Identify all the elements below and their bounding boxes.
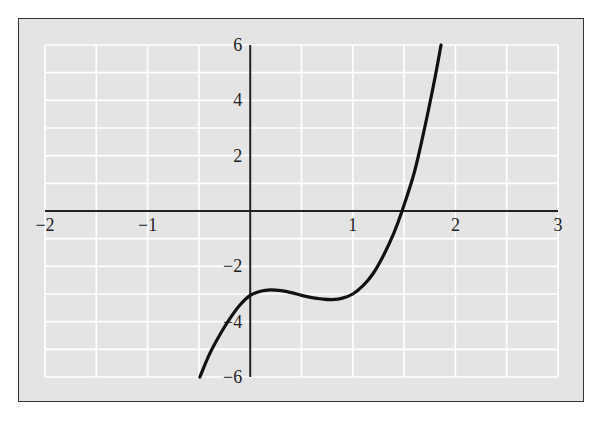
x-tick-label: 2 <box>451 215 460 235</box>
line-chart: −2−1123642−2−4−6 <box>0 0 596 422</box>
x-tick-label: 3 <box>554 215 563 235</box>
y-tick-label: 2 <box>233 146 242 166</box>
x-tick-label: −1 <box>138 215 157 235</box>
y-tick-label: −2 <box>223 256 242 276</box>
x-tick-label: −2 <box>35 215 54 235</box>
y-tick-label: 6 <box>233 35 242 55</box>
y-tick-label: 4 <box>233 90 242 110</box>
x-tick-label: 1 <box>348 215 357 235</box>
y-tick-label: −6 <box>223 367 242 387</box>
